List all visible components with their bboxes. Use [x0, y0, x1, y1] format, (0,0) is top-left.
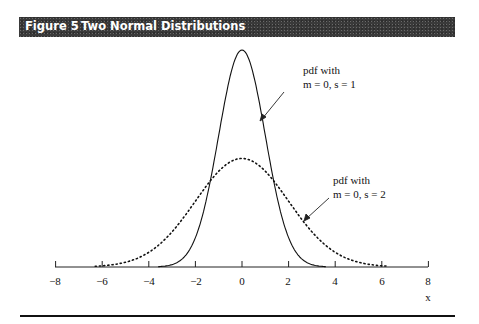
tick-label: −8 [49, 275, 61, 287]
tick-label: 4 [332, 275, 338, 287]
annotation-s1-line2: m = 0, s = 1 [303, 77, 356, 91]
tick-label: −6 [96, 275, 108, 287]
tick-label: −4 [143, 275, 155, 287]
tick-label: −2 [190, 275, 202, 287]
annotation-s1: pdf with m = 0, s = 1 [303, 63, 356, 91]
x-axis-label: x [425, 291, 431, 303]
arrow-s2 [304, 198, 329, 221]
arrow-s1 [260, 92, 284, 121]
tick-label: 8 [425, 275, 431, 287]
tick-label: 0 [239, 275, 245, 287]
annotation-s1-line1: pdf with [303, 63, 356, 77]
curve-s1-solid [158, 50, 326, 267]
bottom-rule [20, 315, 455, 317]
tick-label: 2 [285, 275, 291, 287]
annotation-s2-line1: pdf with [333, 173, 386, 187]
tick-label: 6 [379, 275, 385, 287]
annotation-s2: pdf with m = 0, s = 2 [333, 173, 386, 201]
annotation-s2-line2: m = 0, s = 2 [333, 187, 386, 201]
